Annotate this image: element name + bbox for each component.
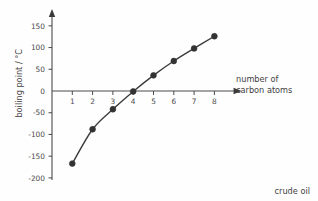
- data-point: [90, 126, 96, 132]
- y-axis-tick-label: 50: [36, 65, 46, 74]
- data-point: [69, 161, 75, 167]
- x-axis-tick-label: 7: [192, 97, 197, 106]
- x-axis-title: number of carbon atoms: [236, 74, 292, 95]
- x-axis-tick-label: 8: [212, 97, 217, 106]
- x-axis-tick-label: 4: [131, 97, 136, 106]
- y-axis-tick-label: -100: [28, 130, 45, 139]
- data-point: [171, 58, 177, 64]
- data-point: [151, 72, 157, 78]
- axis-tick-labels: 150100500-50-100-150-20012345678: [28, 22, 217, 183]
- x-axis-title-line-2: carbon atoms: [236, 85, 292, 96]
- chart-figure: 150100500-50-100-150-20012345678 boiling…: [0, 0, 318, 201]
- y-axis-tick-label: 100: [31, 43, 45, 52]
- x-axis-tick-label: 2: [90, 97, 95, 106]
- y-axis-tick-label: -200: [28, 174, 45, 183]
- figure-caption: crude oil: [275, 186, 310, 196]
- boiling-point-line-chart: 150100500-50-100-150-20012345678: [0, 0, 318, 201]
- data-point: [212, 33, 218, 39]
- data-point: [191, 46, 197, 52]
- data-point: [110, 106, 116, 112]
- y-axis-arrow-icon: [49, 9, 55, 17]
- x-axis-tick-label: 5: [151, 97, 156, 106]
- y-axis-tick-label: 0: [40, 87, 45, 96]
- x-axis-tick-label: 1: [70, 97, 75, 106]
- y-axis-title: boiling point / °C: [14, 23, 25, 143]
- y-axis-tick-label: -150: [28, 152, 45, 161]
- x-axis-tick-label: 3: [111, 97, 116, 106]
- x-axis-tick-label: 6: [171, 97, 176, 106]
- data-point: [130, 89, 136, 95]
- y-axis-tick-label: -50: [33, 108, 45, 117]
- x-axis-title-line-1: number of: [236, 74, 292, 85]
- y-axis-tick-label: 150: [31, 22, 45, 31]
